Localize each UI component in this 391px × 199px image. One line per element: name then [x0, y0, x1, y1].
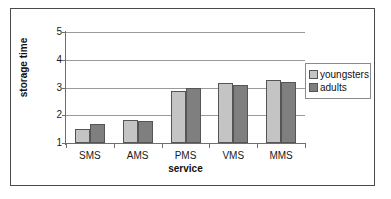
chart-figure: 12345 SMSAMSPMSVMSMMS service storage ti…	[0, 0, 391, 199]
y-tick-label: 1	[48, 138, 62, 148]
legend-item-adults: adults	[309, 81, 367, 94]
plot-area	[66, 32, 305, 143]
legend-label: adults	[320, 82, 347, 93]
y-axis-title: storage time	[18, 23, 29, 113]
x-tick-mark	[114, 144, 115, 148]
y-tick-label: 5	[48, 27, 62, 37]
bar-ams-youngsters	[123, 120, 138, 143]
y-tick-label: 3	[48, 83, 62, 93]
y-tick-mark	[62, 88, 66, 89]
bar-mms-youngsters	[266, 80, 281, 143]
x-tick-mark	[162, 144, 163, 148]
x-tick-mark	[305, 144, 306, 148]
x-tick-label-pms: PMS	[161, 150, 211, 161]
x-tick-label-ams: AMS	[113, 150, 163, 161]
y-axis-ticks: 12345	[44, 0, 62, 199]
gridline	[66, 60, 305, 61]
x-tick-mark	[209, 144, 210, 148]
x-axis-line	[65, 143, 306, 144]
y-tick-mark	[62, 32, 66, 33]
bar-sms-adults	[90, 124, 105, 143]
x-tick-label-sms: SMS	[65, 150, 115, 161]
gridline	[66, 32, 305, 33]
bar-vms-youngsters	[218, 83, 233, 143]
y-tick-mark	[62, 115, 66, 116]
y-tick-label: 2	[48, 110, 62, 120]
bar-sms-youngsters	[75, 129, 90, 143]
y-tick-label: 4	[48, 55, 62, 65]
legend-label: youngsters	[320, 69, 369, 80]
x-axis-title: service	[66, 163, 305, 174]
bar-pms-adults	[186, 88, 201, 144]
legend-swatch-adults-icon	[309, 83, 318, 92]
legend-swatch-youngsters-icon	[309, 70, 318, 79]
x-tick-mark	[257, 144, 258, 148]
x-tick-label-vms: VMS	[208, 150, 258, 161]
legend-item-youngsters: youngsters	[309, 68, 367, 81]
x-tick-mark	[66, 144, 67, 148]
bar-pms-youngsters	[171, 91, 186, 143]
bar-vms-adults	[233, 85, 248, 143]
y-tick-mark	[62, 60, 66, 61]
chart-legend: youngstersadults	[305, 63, 371, 99]
bar-ams-adults	[138, 121, 153, 143]
bar-mms-adults	[281, 82, 296, 143]
x-tick-label-mms: MMS	[256, 150, 306, 161]
